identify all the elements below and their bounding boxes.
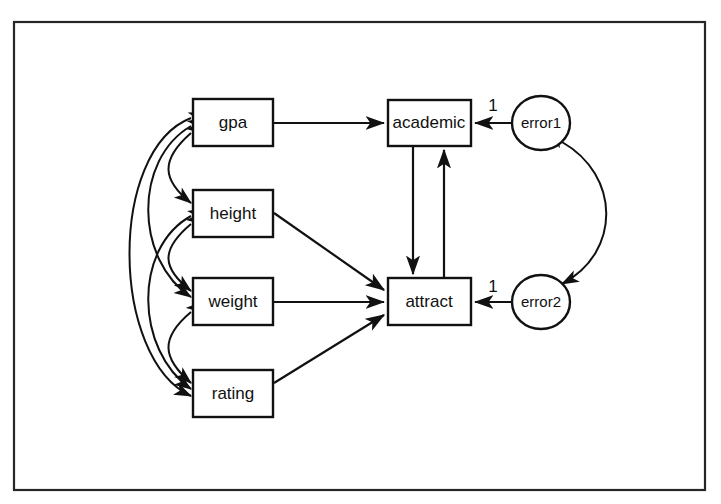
edge-rating-attract [274, 315, 384, 383]
node-academic-label: academic [393, 113, 466, 132]
node-weight[interactable]: weight [193, 278, 273, 325]
node-error1-label: error1 [521, 114, 561, 131]
diagram-frame [14, 22, 705, 490]
node-gpa-label: gpa [219, 113, 248, 132]
node-rating[interactable]: rating [193, 370, 273, 417]
coef-label-error2: 1 [488, 277, 497, 296]
edge-gpa-height [168, 133, 191, 203]
edge-height-attract [274, 213, 384, 290]
node-error2[interactable]: error2 [512, 275, 570, 329]
node-gpa[interactable]: gpa [193, 99, 273, 146]
node-rating-label: rating [212, 384, 255, 403]
node-error1[interactable]: error1 [512, 96, 570, 150]
node-academic[interactable]: academic [388, 100, 471, 146]
edge-error1-error2 [562, 142, 606, 284]
coef-label-error1: 1 [488, 96, 497, 115]
node-error2-label: error2 [521, 293, 561, 310]
node-attract-label: attract [405, 292, 453, 311]
node-height[interactable]: height [193, 190, 273, 237]
edge-height-rating [148, 216, 191, 389]
node-height-label: height [210, 204, 257, 223]
node-attract[interactable]: attract [388, 278, 471, 325]
path-diagram-canvas: gpa height weight rating academic attrac… [0, 0, 721, 504]
node-weight-label: weight [207, 292, 257, 311]
path-diagram: gpa height weight rating academic attrac… [0, 0, 721, 504]
